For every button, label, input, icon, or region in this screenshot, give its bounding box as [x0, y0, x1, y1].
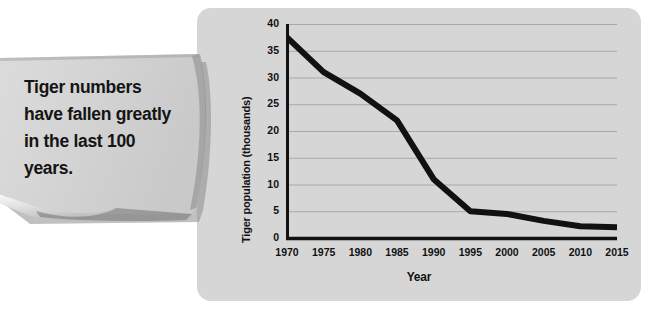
- y-tick-label: 20: [253, 124, 279, 136]
- y-tick-label: 30: [253, 71, 279, 83]
- x-axis-title: Year: [197, 270, 641, 284]
- chart-panel: 0510152025303540 19701975198019851990199…: [197, 8, 641, 301]
- x-tick-label: 2000: [490, 246, 524, 258]
- y-tick-label: 5: [253, 204, 279, 216]
- y-tick-label: 15: [253, 151, 279, 163]
- callout-text: Tiger numbers have fallen greatly in the…: [24, 74, 174, 182]
- y-tick-label: 40: [253, 17, 279, 29]
- x-tick-label: 2005: [527, 246, 561, 258]
- chart-gridlines: [287, 25, 617, 212]
- y-tick-label: 35: [253, 44, 279, 56]
- x-tick-label: 1970: [270, 246, 304, 258]
- y-tick-label: 25: [253, 97, 279, 109]
- x-tick-label: 1975: [307, 246, 341, 258]
- callout-note: Tiger numbers have fallen greatly in the…: [0, 48, 220, 244]
- y-tick-label: 0: [253, 231, 279, 243]
- x-tick-label: 1985: [380, 246, 414, 258]
- x-tick-label: 2010: [563, 246, 597, 258]
- x-tick-label: 2015: [600, 246, 634, 258]
- page-root: 0510152025303540 19701975198019851990199…: [0, 0, 652, 312]
- y-axis-title: Tiger population (thousands): [240, 97, 252, 243]
- x-tick-label: 1980: [343, 246, 377, 258]
- data-series-line: [287, 37, 617, 227]
- x-tick-label: 1995: [453, 246, 487, 258]
- x-tick-label: 1990: [417, 246, 451, 258]
- y-tick-label: 10: [253, 178, 279, 190]
